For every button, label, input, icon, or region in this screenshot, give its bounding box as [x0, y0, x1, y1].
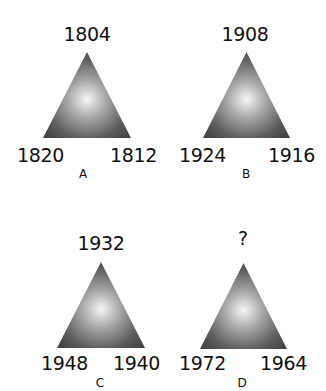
panel-label: D: [237, 377, 246, 389]
panel-d: ? 1972 1964 D: [0, 0, 326, 391]
missing-number-question-mark: ?: [238, 229, 248, 248]
triangle-shape: [200, 263, 287, 349]
bottom-right-number: 1964: [260, 354, 307, 373]
bottom-left-number: 1972: [179, 354, 226, 373]
